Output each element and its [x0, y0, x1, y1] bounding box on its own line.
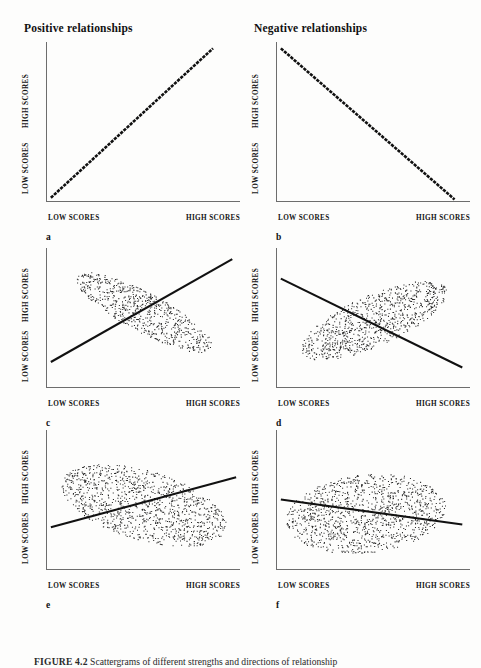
- panel-d: LOW SCORES HIGH SCORES LOW SCORES HIGH S…: [248, 246, 474, 426]
- y-axis-label-high: HIGH SCORES: [252, 450, 260, 504]
- panel-letter-b: b: [276, 232, 281, 242]
- scatter-svg-a: [47, 42, 240, 201]
- scatter-svg-c: [47, 248, 240, 387]
- column-heading-negative: Negative relationships: [254, 22, 367, 34]
- y-axis-label-high: HIGH SCORES: [252, 74, 260, 128]
- dot-cloud: [77, 272, 212, 353]
- plot-area-e: [46, 430, 240, 570]
- scatter-svg-d: [277, 248, 470, 387]
- plot-area-b: [276, 42, 470, 202]
- figure-page: Positive relationships Negative relation…: [0, 0, 481, 668]
- x-axis-label-low: LOW SCORES: [278, 400, 330, 408]
- panel-e: LOW SCORES HIGH SCORES LOW SCORES HIGH S…: [18, 428, 244, 608]
- x-axis-label-low: LOW SCORES: [48, 214, 100, 222]
- x-axis-label-high: HIGH SCORES: [186, 582, 240, 590]
- scatter-svg-b: [277, 42, 470, 201]
- panel-b: LOW SCORES HIGH SCORES LOW SCORES HIGH S…: [248, 40, 474, 240]
- panel-c: LOW SCORES HIGH SCORES LOW SCORES HIGH S…: [18, 246, 244, 426]
- trend-line: [281, 500, 462, 525]
- x-axis-label-high: HIGH SCORES: [186, 214, 240, 222]
- figure-caption: FIGURE 4.2 Scattergrams of different str…: [34, 655, 464, 668]
- x-axis-label-low: LOW SCORES: [48, 582, 100, 590]
- panel-a: LOW SCORES HIGH SCORES LOW SCORES HIGH S…: [18, 40, 244, 240]
- y-axis-label-low: LOW SCORES: [22, 513, 30, 565]
- panel-f: LOW SCORES HIGH SCORES LOW SCORES HIGH S…: [248, 428, 474, 608]
- y-axis-label-high: HIGH SCORES: [22, 268, 30, 322]
- x-axis-label-high: HIGH SCORES: [186, 400, 240, 408]
- scatter-svg-e: [47, 430, 240, 569]
- y-axis-label-high: HIGH SCORES: [22, 74, 30, 128]
- trend-line: [281, 48, 455, 199]
- panel-letter-d: d: [276, 418, 281, 428]
- x-axis-label-low: LOW SCORES: [278, 582, 330, 590]
- x-axis-label-high: HIGH SCORES: [416, 400, 470, 408]
- plot-area-a: [46, 42, 240, 202]
- column-heading-positive: Positive relationships: [24, 22, 133, 34]
- x-axis-label-low: LOW SCORES: [48, 400, 100, 408]
- plot-area-d: [276, 248, 470, 388]
- y-axis-label-low: LOW SCORES: [252, 331, 260, 383]
- plot-area-f: [276, 430, 470, 570]
- y-axis-label-low: LOW SCORES: [252, 143, 260, 195]
- dot-cloud: [62, 464, 227, 546]
- y-axis-label-low: LOW SCORES: [22, 331, 30, 383]
- panel-letter-f: f: [276, 600, 279, 610]
- x-axis-label-low: LOW SCORES: [278, 214, 330, 222]
- plot-area-c: [46, 248, 240, 388]
- x-axis-label-high: HIGH SCORES: [416, 582, 470, 590]
- panel-letter-a: a: [46, 232, 51, 242]
- y-axis-label-low: LOW SCORES: [22, 143, 30, 195]
- trend-line: [51, 259, 232, 362]
- panel-letter-c: c: [46, 418, 50, 428]
- scatter-svg-f: [277, 430, 470, 569]
- figure-number: FIGURE 4.2: [34, 656, 88, 667]
- x-axis-label-high: HIGH SCORES: [416, 214, 470, 222]
- trend-line: [51, 48, 213, 197]
- panel-letter-e: e: [46, 600, 50, 610]
- y-axis-label-low: LOW SCORES: [252, 513, 260, 565]
- dot-cloud: [287, 474, 446, 554]
- figure-caption-text: Scattergrams of different strengths and …: [90, 656, 337, 667]
- y-axis-label-high: HIGH SCORES: [252, 268, 260, 322]
- y-axis-label-high: HIGH SCORES: [22, 450, 30, 504]
